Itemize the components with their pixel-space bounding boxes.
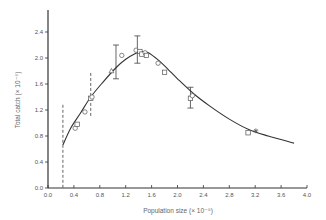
star-marker: [253, 128, 258, 133]
x-tick-label: 0.8: [96, 192, 105, 198]
y-tick-label: 1.6: [35, 81, 44, 87]
y-tick-label: 2.4: [35, 29, 44, 35]
circle-marker: [90, 95, 94, 99]
chart: 0.00.40.81.21.62.02.4 0.00.40.81.21.62.0…: [0, 0, 326, 220]
circle-marker: [83, 110, 87, 114]
square-marker: [144, 53, 148, 57]
x-axis-label: Population size (× 10⁻⁵): [143, 207, 213, 215]
x-tick-label: 3.6: [277, 192, 286, 198]
y-tick-label: 1.2: [35, 107, 44, 113]
fitted-curve: [63, 51, 294, 145]
y-tick-label: 2.0: [35, 55, 44, 61]
square-marker: [162, 70, 166, 74]
x-tick-label: 2.8: [225, 192, 234, 198]
x-tick-label: 0.0: [44, 192, 53, 198]
y-axis: 0.00.40.81.21.62.02.4: [35, 10, 48, 191]
square-marker: [246, 131, 250, 135]
y-tick-label: 0.0: [35, 185, 44, 191]
circle-marker: [156, 61, 160, 65]
x-tick-label: 1.6: [147, 192, 156, 198]
x-tick-label: 4.0: [303, 192, 312, 198]
x-tick-label: 2.4: [199, 192, 208, 198]
data-points: [73, 48, 258, 135]
curve-line: [63, 51, 294, 145]
circle-marker: [120, 53, 124, 57]
x-tick-label: 1.2: [122, 192, 131, 198]
square-marker: [75, 122, 79, 126]
x-tick-label: 3.2: [251, 192, 260, 198]
x-tick-label: 0.4: [70, 192, 79, 198]
x-axis: 0.00.40.81.21.62.02.42.83.23.64.0: [44, 185, 312, 198]
y-tick-label: 0.8: [35, 133, 44, 139]
y-tick-label: 0.4: [35, 159, 44, 165]
circle-marker: [190, 94, 194, 98]
y-axis-label: Total catch (× 10⁻⁵): [14, 72, 22, 129]
x-tick-label: 2.0: [173, 192, 182, 198]
